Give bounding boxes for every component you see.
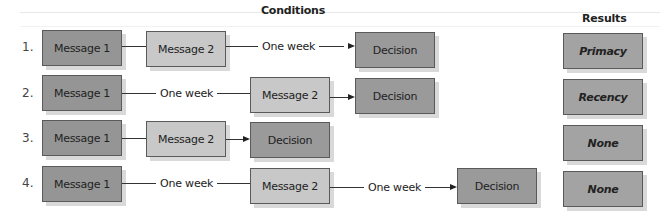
row-number: 2. (22, 86, 33, 100)
arrow-right-icon (243, 136, 250, 142)
message-1-box: Message 1 (42, 30, 122, 66)
message-1-box: Message 1 (42, 166, 122, 202)
message-2-box: Message 2 (250, 168, 330, 204)
decision-box: Decision (355, 78, 435, 114)
connector-line (330, 97, 348, 98)
arrow-right-icon (348, 43, 355, 49)
connector-line (122, 138, 146, 139)
row-number: 3. (22, 131, 33, 145)
message-2-box: Message 2 (146, 121, 226, 157)
message-1-box: Message 1 (42, 75, 122, 111)
decision-box: Decision (250, 122, 330, 158)
arrow-right-icon (450, 184, 457, 190)
result-box: None (563, 125, 643, 161)
arrow-right-icon (348, 94, 355, 100)
row-number: 1. (22, 40, 33, 54)
connector-line (122, 46, 146, 47)
message-2-box: Message 2 (250, 77, 330, 113)
message-1-box: Message 1 (42, 120, 122, 156)
results-heading: Results (582, 12, 627, 25)
result-box: Primacy (563, 33, 643, 69)
header-rule-lower (20, 26, 660, 27)
delay-label: One week (258, 40, 319, 53)
delay-label: One week (156, 177, 217, 190)
delay-label: One week (364, 181, 425, 194)
row-number: 4. (22, 176, 33, 190)
message-2-box: Message 2 (146, 31, 226, 67)
decision-box: Decision (355, 32, 435, 68)
conditions-heading: Conditions (261, 4, 325, 17)
header-rule (20, 12, 660, 13)
delay-label: One week (156, 87, 217, 100)
result-box: Recency (563, 79, 643, 115)
result-box: None (563, 171, 643, 207)
connector-line (226, 139, 243, 140)
decision-box: Decision (457, 168, 537, 204)
